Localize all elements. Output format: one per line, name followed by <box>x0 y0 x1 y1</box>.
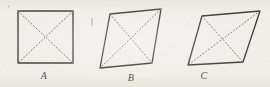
shape-label-c: C <box>201 70 208 81</box>
stray-speckle-icon <box>8 6 10 8</box>
shape-label-a: A <box>41 70 47 81</box>
geometry-figure: A B C <box>0 0 270 87</box>
shape-label-b: B <box>128 72 134 83</box>
